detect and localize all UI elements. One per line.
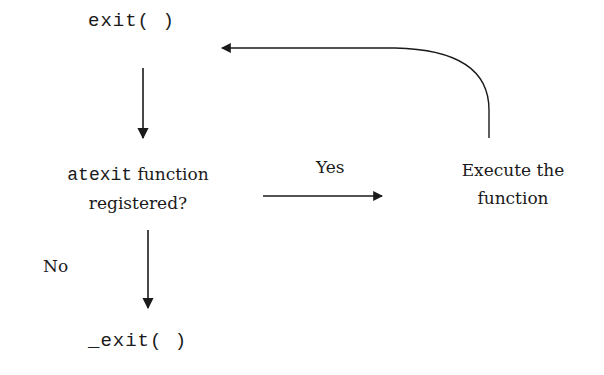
- atexit-keyword: atexit: [67, 165, 132, 185]
- node-execute-line1: Execute the: [438, 156, 588, 184]
- atexit-flowchart: exit( ) atexit function registered? Exec…: [0, 0, 604, 375]
- node-execute-line2: function: [438, 184, 588, 212]
- node-atexit-check-line1: atexit function: [18, 160, 258, 189]
- node-atexit-check: atexit function registered?: [18, 160, 258, 217]
- node-exit-call: exit( ): [88, 10, 175, 32]
- node-underscore-exit-call: _exit( ): [88, 330, 187, 352]
- node-atexit-check-line2: registered?: [18, 189, 258, 217]
- check-rest-text: function: [132, 164, 209, 184]
- node-execute-function: Execute the function: [438, 156, 588, 212]
- edge-label-no: No: [43, 256, 68, 276]
- arrow-execute-to-exit: [222, 48, 489, 138]
- edge-label-yes: Yes: [316, 157, 345, 177]
